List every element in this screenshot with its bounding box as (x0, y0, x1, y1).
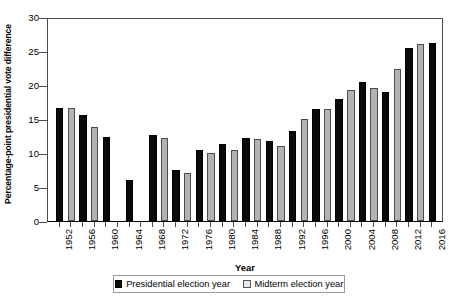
x-tick-label-1976: 1976 (203, 229, 214, 250)
x-tick-label-1968: 1968 (156, 229, 167, 250)
y-tick-mark-15 (39, 120, 47, 121)
x-tick-mark-1956 (82, 222, 83, 227)
bar-2010 (394, 69, 401, 221)
x-tick-mark-1952 (59, 222, 60, 227)
x-tick-mark-1962 (117, 222, 118, 227)
bar-1956 (79, 115, 86, 221)
x-tick-mark-1966 (140, 222, 141, 227)
y-tick-mark-30 (39, 18, 47, 19)
x-tick-label-1996: 1996 (319, 229, 330, 250)
bar-1978 (207, 153, 214, 221)
y-tick-mark-20 (39, 86, 47, 87)
bar-1954 (68, 108, 75, 221)
x-tick-mark-1958 (94, 222, 95, 227)
chart-figure: Percentage-point presidential vote diffe… (0, 0, 453, 304)
x-tick-label-1984: 1984 (249, 229, 260, 250)
legend-swatch-pres (115, 280, 123, 288)
x-tick-label-2008: 2008 (389, 229, 400, 250)
x-tick-label-1956: 1956 (86, 229, 97, 250)
x-tick-mark-2014 (420, 222, 421, 227)
y-tick-label-15: 15 (8, 115, 39, 125)
x-tick-mark-1970 (163, 222, 164, 227)
bar-1992 (289, 131, 296, 221)
x-tick-mark-2016 (431, 222, 432, 227)
bar-1974 (184, 173, 191, 221)
y-tick-label-20: 20 (8, 81, 39, 91)
bar-1958 (91, 127, 98, 221)
x-tick-mark-2004 (361, 222, 362, 227)
x-tick-mark-1998 (327, 222, 328, 227)
x-tick-mark-2006 (373, 222, 374, 227)
bar-1982 (231, 150, 238, 221)
legend-item-mid: Midterm election year (243, 279, 343, 289)
x-tick-mark-1988 (268, 222, 269, 227)
x-tick-label-1980: 1980 (226, 229, 237, 250)
x-tick-mark-1982 (233, 222, 234, 227)
bar-1970 (161, 138, 168, 221)
bar-1990 (277, 146, 284, 221)
x-tick-mark-2008 (385, 222, 386, 227)
bar-2008 (382, 92, 389, 221)
bar-1960 (103, 137, 110, 221)
x-tick-mark-1994 (303, 222, 304, 227)
x-tick-label-2012: 2012 (412, 229, 423, 250)
bar-1980 (219, 144, 226, 221)
x-tick-mark-2010 (396, 222, 397, 227)
x-tick-mark-1974 (187, 222, 188, 227)
x-tick-label-1972: 1972 (179, 229, 190, 250)
bar-1988 (266, 141, 273, 221)
y-tick-mark-5 (39, 188, 47, 189)
legend-label-pres: Presidential election year (126, 279, 230, 289)
y-tick-label-10: 10 (8, 149, 39, 159)
x-tick-mark-1964 (129, 222, 130, 227)
legend-item-pres: Presidential election year (115, 279, 230, 289)
chart-legend: Presidential election yearMidterm electi… (113, 275, 345, 293)
x-tick-label-1960: 1960 (109, 229, 120, 250)
bar-2014 (417, 44, 424, 221)
bar-2006 (370, 88, 377, 221)
x-tick-label-1988: 1988 (272, 229, 283, 250)
x-tick-label-2004: 2004 (366, 229, 377, 250)
x-tick-mark-1954 (70, 222, 71, 227)
bar-2000 (335, 99, 342, 221)
y-tick-label-30: 30 (8, 13, 39, 23)
x-tick-mark-1960 (105, 222, 106, 227)
bar-1952 (56, 108, 63, 221)
bar-1998 (324, 109, 331, 221)
bar-1996 (312, 109, 319, 221)
y-tick-label-25: 25 (8, 47, 39, 57)
x-tick-mark-1984 (245, 222, 246, 227)
bar-2004 (359, 82, 366, 221)
x-tick-mark-1978 (210, 222, 211, 227)
bar-1976 (196, 150, 203, 221)
bar-1984 (242, 138, 249, 221)
bar-1994 (301, 119, 308, 221)
x-tick-label-2000: 2000 (342, 229, 353, 250)
x-tick-mark-1976 (198, 222, 199, 227)
x-tick-label-2016: 2016 (436, 229, 447, 250)
x-tick-label-1992: 1992 (296, 229, 307, 250)
x-tick-mark-1990 (280, 222, 281, 227)
x-tick-mark-1972 (175, 222, 176, 227)
x-tick-mark-1992 (292, 222, 293, 227)
y-tick-label-0: 0 (8, 217, 39, 227)
y-tick-label-5: 5 (8, 183, 39, 193)
x-tick-mark-1968 (152, 222, 153, 227)
plot-area (47, 18, 443, 222)
bar-1986 (254, 139, 261, 221)
bar-2012 (405, 48, 412, 221)
bar-1972 (172, 170, 179, 221)
x-tick-mark-1980 (222, 222, 223, 227)
y-axis-title: Percentage-point presidential vote diffe… (0, 0, 16, 228)
y-tick-mark-10 (39, 154, 47, 155)
legend-swatch-mid (243, 280, 251, 288)
bar-1968 (149, 135, 156, 221)
legend-label-mid: Midterm election year (255, 279, 344, 289)
x-tick-mark-1986 (257, 222, 258, 227)
x-tick-mark-2012 (408, 222, 409, 227)
bar-2002 (347, 90, 354, 221)
x-tick-label-1952: 1952 (63, 229, 74, 250)
x-tick-mark-2002 (350, 222, 351, 227)
bars-container (48, 19, 442, 221)
x-tick-mark-1996 (315, 222, 316, 227)
